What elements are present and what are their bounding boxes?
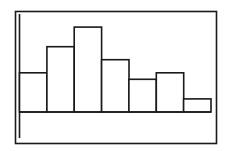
bars-group [20,27,212,112]
bar-4 [102,60,129,112]
bar-1 [20,73,47,112]
histogram-chart [0,0,227,151]
bar-7 [184,99,211,112]
bar-6 [156,73,183,112]
bar-5 [129,79,156,112]
bar-2 [47,47,74,112]
bar-3 [74,27,101,112]
